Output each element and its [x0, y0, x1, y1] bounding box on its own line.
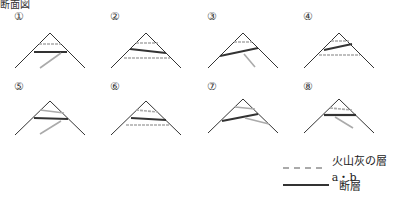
- panel-3: ③: [203, 10, 293, 80]
- cross-section-2: [106, 10, 196, 80]
- panel-6: ⑥: [106, 80, 196, 150]
- cross-section-1: [10, 10, 100, 80]
- cross-section-8: [299, 80, 389, 150]
- legend: 火山灰の層 a・b 断層: [283, 159, 402, 193]
- legend-ash-layer: 火山灰の層 a・b: [283, 159, 402, 176]
- legend-fault-label: 断層: [339, 177, 361, 193]
- panel-1: ①: [10, 10, 100, 80]
- cross-section-4: [299, 10, 389, 80]
- cross-section-5: [10, 80, 100, 150]
- panel-7: ⑦: [203, 80, 293, 150]
- panel-8: ⑧: [299, 80, 389, 150]
- panel-2: ②: [106, 10, 196, 80]
- panel-5: ⑤: [10, 80, 100, 150]
- ash-layer-line-icon: [283, 167, 322, 169]
- cross-section-7: [203, 80, 293, 150]
- panel-4: ④: [299, 10, 389, 80]
- cross-section-3: [203, 10, 293, 80]
- cross-section-6: [106, 80, 196, 150]
- fault-line-icon: [283, 184, 329, 186]
